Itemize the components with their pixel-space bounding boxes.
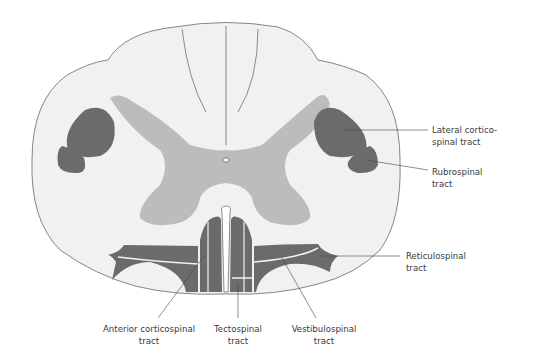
label-rubrospinal-tract: Rubrospinal tract <box>432 166 483 190</box>
label-reticulospinal-tract: Reticulospinal tract <box>406 250 466 274</box>
label-tectospinal-tract: Tectospinal tract <box>206 323 270 347</box>
label-lateral-corticospinal-tract: Lateral cortico- spinal tract <box>432 124 497 148</box>
label-anterior-corticospinal-tract: Anterior corticospinal tract <box>94 323 204 347</box>
central-canal <box>223 158 229 162</box>
label-vestibulospinal-tract: Vestibulospinal tract <box>286 323 362 347</box>
